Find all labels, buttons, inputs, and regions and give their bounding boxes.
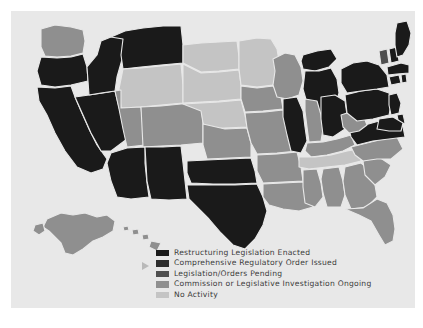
legend-item-pending[interactable]: Legislation/Orders Pending: [156, 269, 411, 279]
state-HI1[interactable]: [123, 226, 129, 231]
map-legend: Restructuring Legislation Enacted Compre…: [156, 248, 411, 300]
state-CO[interactable]: [141, 103, 203, 147]
state-ND[interactable]: [183, 41, 239, 72]
state-WI[interactable]: [273, 53, 303, 99]
legend-swatch-investigation: [156, 281, 169, 288]
state-RI[interactable]: [401, 74, 407, 83]
state-OK[interactable]: [187, 158, 257, 184]
state-KS[interactable]: [203, 124, 251, 159]
map-panel: Restructuring Legislation Enacted Compre…: [11, 11, 415, 308]
state-VT[interactable]: [379, 49, 389, 65]
state-AK[interactable]: [43, 213, 115, 255]
us-restructuring-map-page: Restructuring Legislation Enacted Compre…: [0, 0, 423, 328]
state-HI2[interactable]: [132, 229, 139, 235]
state-TX[interactable]: [187, 184, 267, 249]
legend-item-enacted[interactable]: Restructuring Legislation Enacted: [156, 248, 411, 258]
state-MN[interactable]: [239, 38, 279, 87]
legend-item-order[interactable]: Comprehensive Regulatory Order Issued: [156, 258, 411, 268]
state-NJ[interactable]: [389, 93, 401, 115]
legend-swatch-none: [156, 292, 169, 299]
state-MT[interactable]: [111, 26, 183, 69]
legend-item-investigation[interactable]: Commission or Legislative Investigation …: [156, 279, 411, 289]
legend-item-none[interactable]: No Activity: [156, 290, 411, 300]
state-AK-tail[interactable]: [33, 223, 45, 235]
legend-swatch-order: [156, 260, 169, 267]
state-WA[interactable]: [41, 25, 85, 57]
state-MS[interactable]: [303, 169, 323, 207]
legend-swatch-enacted: [156, 250, 169, 257]
legend-swatch-pending: [156, 271, 169, 278]
legend-label-order: Comprehensive Regulatory Order Issued: [174, 258, 337, 268]
state-NY[interactable]: [341, 61, 389, 93]
state-MA[interactable]: [387, 63, 409, 75]
state-OR[interactable]: [37, 54, 88, 87]
state-PA[interactable]: [345, 89, 391, 121]
state-WY[interactable]: [119, 64, 183, 108]
state-ME[interactable]: [395, 21, 411, 57]
map-area: [11, 11, 415, 261]
pointer-arrow-icon: [142, 262, 149, 270]
state-CT[interactable]: [389, 75, 401, 85]
legend-label-pending: Legislation/Orders Pending: [174, 269, 282, 279]
state-AL[interactable]: [321, 167, 345, 207]
state-HI3[interactable]: [142, 234, 149, 240]
state-AR[interactable]: [257, 152, 303, 183]
legend-label-investigation: Commission or Legislative Investigation …: [174, 279, 371, 289]
state-MI[interactable]: [301, 49, 337, 71]
us-states-map: [11, 11, 415, 261]
legend-label-none: No Activity: [174, 290, 218, 300]
legend-label-enacted: Restructuring Legislation Enacted: [174, 248, 310, 258]
state-NM[interactable]: [145, 146, 187, 200]
state-AZ[interactable]: [107, 147, 149, 199]
